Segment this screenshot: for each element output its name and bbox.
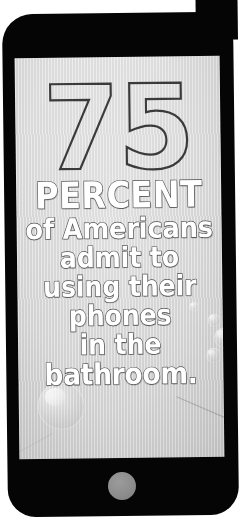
statistic-body-line-1: of Americans [15, 213, 225, 244]
statistic-body-line-5: in the [18, 329, 223, 360]
statistic-number: 75 [15, 74, 225, 184]
statistic-body-line-4: phones [18, 300, 223, 331]
statistic-body-line-6: bathroom. [16, 358, 224, 390]
scan-scratch [176, 396, 224, 433]
phone-screen: 75 PERCENT of Americans admit to using t… [15, 56, 225, 459]
statistic-text-stack: 75 PERCENT of Americans admit to using t… [15, 80, 224, 388]
home-button[interactable] [108, 472, 136, 500]
infographic-poster: 75 PERCENT of Americans admit to using t… [0, 0, 245, 525]
statistic-unit-label: PERCENT [16, 175, 221, 214]
statistic-body-line-3: using their [17, 271, 222, 302]
scan-scratch [15, 433, 52, 454]
statistic-body-line-2: admit to [17, 242, 222, 273]
